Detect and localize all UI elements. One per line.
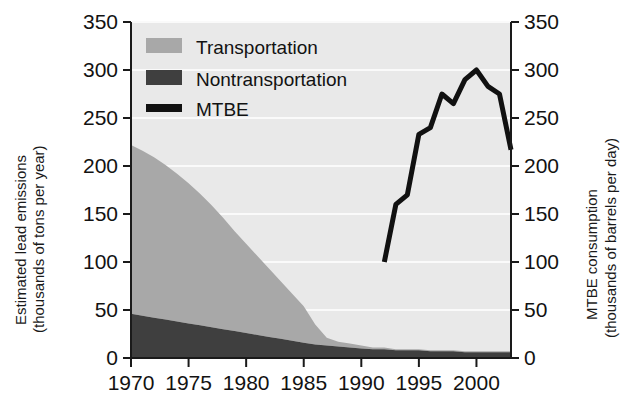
- x-tick-label: 1975: [165, 371, 212, 394]
- chart-figure: 050100150200250300350 050100150200250300…: [0, 0, 632, 399]
- right-tick-label: 100: [524, 250, 559, 273]
- left-axis-title-line2: (thousands of tons per year): [30, 145, 47, 333]
- legend-label-2: MTBE: [196, 99, 249, 120]
- left-tick-label: 300: [83, 58, 118, 81]
- left-tick-label: 50: [95, 298, 118, 321]
- left-tick-label: 100: [83, 250, 118, 273]
- x-tick-label: 1985: [280, 371, 327, 394]
- right-tick-label: 150: [524, 202, 559, 225]
- right-tick-label: 300: [524, 58, 559, 81]
- x-tick-label: 2000: [453, 371, 500, 394]
- left-tick-label: 0: [106, 346, 118, 369]
- x-tick-label: 1995: [396, 371, 443, 394]
- legend-label-1: Nontransportation: [196, 69, 347, 90]
- right-tick-label: 350: [524, 10, 559, 33]
- legend-swatch-0: [146, 38, 182, 53]
- x-tick-label: 1990: [338, 371, 385, 394]
- left-tick-label: 350: [83, 10, 118, 33]
- lead-emissions-mtbe-chart: 050100150200250300350 050100150200250300…: [0, 0, 632, 399]
- left-axis-title-line1: Estimated lead emissions: [12, 155, 29, 325]
- right-tick-label: 250: [524, 106, 559, 129]
- right-axis-title-line2: (thousands of barrels per day): [602, 138, 619, 338]
- left-tick-label: 150: [83, 202, 118, 225]
- left-tick-label: 200: [83, 154, 118, 177]
- legend-swatch-1: [146, 70, 182, 85]
- right-tick-label: 200: [524, 154, 559, 177]
- left-tick-label: 250: [83, 106, 118, 129]
- legend-label-0: Transportation: [196, 37, 318, 58]
- legend-swatch-2: [146, 104, 182, 112]
- right-axis-title-line1: MTBE consumption: [583, 189, 600, 320]
- x-tick-label: 1980: [223, 371, 270, 394]
- right-tick-label: 0: [524, 346, 536, 369]
- x-tick-label: 1970: [108, 371, 155, 394]
- left-axis-title: Estimated lead emissions (thousands of t…: [12, 145, 47, 333]
- right-tick-label: 50: [524, 298, 547, 321]
